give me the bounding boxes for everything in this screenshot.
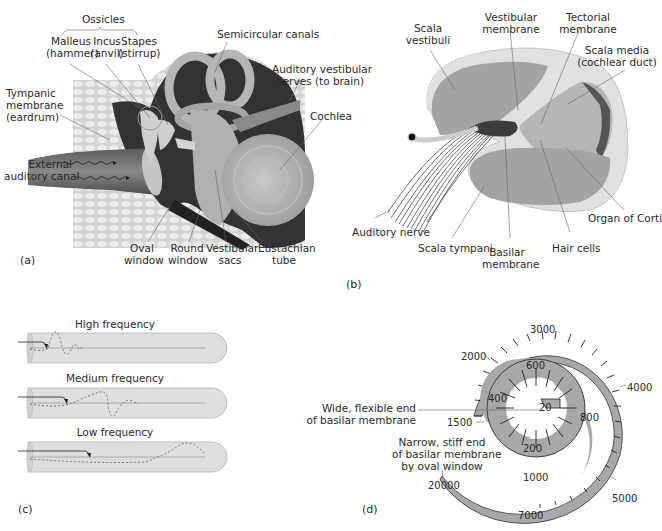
freq-label-800: 800	[580, 412, 599, 424]
narrow-end-line2: of basilar membrane	[392, 448, 492, 460]
freq-label-1500: 1500	[447, 417, 472, 429]
freq-label-400: 400	[488, 393, 507, 405]
narrow-end-line3: by oval window	[392, 460, 492, 472]
freq-label-20: 20	[539, 402, 552, 414]
wide-end-line1: Wide, flexible end	[300, 402, 416, 414]
narrow-end-label: Narrow, stiff end of basilar membrane by…	[392, 436, 492, 472]
freq-label-1000: 1000	[523, 472, 548, 484]
wide-end-line2: of basilar membrane	[300, 414, 416, 426]
wide-end-label: Wide, flexible end of basilar membrane	[300, 402, 416, 426]
freq-label-20000: 20000	[428, 480, 460, 492]
freq-label-200: 200	[523, 443, 542, 455]
freq-label-7000: 7000	[518, 510, 543, 522]
freq-label-3000: 3000	[530, 324, 555, 336]
freq-label-2000: 2000	[461, 351, 486, 363]
narrow-end-line1: Narrow, stiff end	[392, 436, 492, 448]
freq-label-4000: 4000	[627, 382, 652, 394]
freq-label-600: 600	[526, 360, 545, 372]
freq-label-5000: 5000	[612, 493, 637, 505]
panel-d-tag: (d)	[362, 503, 378, 516]
